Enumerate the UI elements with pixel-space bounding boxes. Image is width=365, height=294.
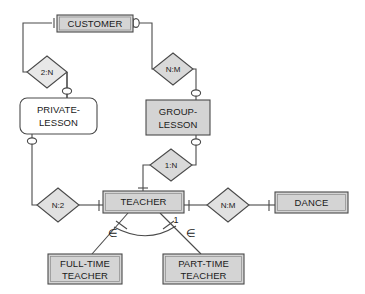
- entity-private-lesson-label-line1: PRIVATE-: [37, 104, 80, 115]
- relationship-n2: N:2: [37, 188, 79, 222]
- relationship-nm-teacher-dance-label: N:M: [221, 201, 236, 210]
- entity-customer-label: CUSTOMER: [68, 18, 123, 29]
- edge-private-lesson-to-n2: [27, 134, 37, 205]
- er-diagram-canvas: 2:N N:M 1:N N:2 N:M CUSTOMER PRIVATE-: [0, 0, 365, 294]
- relationship-nm-customer-group-label: N:M: [166, 65, 181, 74]
- edge-nm-to-dance: [249, 200, 275, 211]
- er-diagram-svg: 2:N N:M 1:N N:2 N:M CUSTOMER PRIVATE-: [0, 0, 365, 294]
- entity-teacher-label: TEACHER: [120, 196, 166, 207]
- edge-1n-to-teacher: [138, 165, 150, 191]
- entity-dance[interactable]: DANCE: [275, 192, 348, 213]
- edge-2n-to-private-lesson: [62, 72, 71, 98]
- relationship-1n-label: 1:N: [165, 161, 178, 170]
- entity-customer[interactable]: CUSTOMER: [57, 15, 133, 32]
- entity-dance-label: DANCE: [295, 197, 329, 208]
- relationship-2n: 2:N: [27, 56, 67, 88]
- entity-full-time-teacher-label-line1: FULL-TIME: [60, 258, 110, 269]
- entity-full-time-teacher[interactable]: FULL-TIME TEACHER: [48, 254, 122, 284]
- entity-private-lesson[interactable]: PRIVATE- LESSON: [20, 98, 97, 134]
- entity-group-lesson-label-line2: LESSON: [158, 119, 197, 130]
- edge-n2-to-teacher: [79, 200, 103, 211]
- relationship-2n-label: 2:N: [41, 68, 54, 77]
- relationship-n2-label: N:2: [52, 201, 65, 210]
- relationship-1n: 1:N: [150, 149, 192, 181]
- entity-group-lesson[interactable]: GROUP- LESSON: [146, 100, 210, 135]
- entity-teacher[interactable]: TEACHER: [103, 191, 184, 213]
- entity-full-time-teacher-label-line2: TEACHER: [62, 270, 108, 281]
- entity-private-lesson-label-line2: LESSON: [39, 117, 78, 128]
- subset-symbol-right: ∈: [186, 227, 196, 239]
- edge-group-lesson-to-1n: [191, 135, 200, 165]
- edge-teacher-to-nm-dance: [184, 200, 207, 211]
- relationship-nm-teacher-dance: N:M: [207, 188, 249, 222]
- subset-symbol-left: ∈: [108, 227, 118, 239]
- edge-nm-to-group-lesson: [191, 69, 200, 100]
- entity-part-time-teacher-label-line1: PART-TIME: [178, 258, 229, 269]
- entity-part-time-teacher-label-line2: TEACHER: [180, 270, 226, 281]
- edge-customer-to-nm: [133, 18, 153, 69]
- entity-part-time-teacher[interactable]: PART-TIME TEACHER: [163, 254, 244, 284]
- disjoint-constraint-label: 1: [173, 215, 178, 225]
- relationship-nm-customer-group: N:M: [153, 53, 193, 85]
- entity-group-lesson-label-line1: GROUP-: [159, 106, 198, 117]
